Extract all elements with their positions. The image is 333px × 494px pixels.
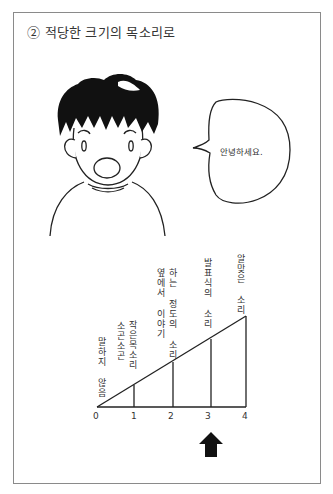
- tick-2: 2: [168, 411, 174, 421]
- speech-bubble-text: 안녕하세요.: [220, 145, 263, 157]
- boy-illustration: [50, 128, 165, 236]
- level-2-label-b: 하는 정도의 소리: [167, 268, 177, 360]
- level-0-label: 말하지 않음: [96, 337, 106, 398]
- up-arrow-icon: [199, 432, 223, 457]
- level-1-label-a: 소곤소곤: [115, 321, 125, 361]
- illustration-drawing: [0, 0, 333, 494]
- tick-0: 0: [93, 411, 99, 421]
- tick-1: 1: [131, 411, 137, 421]
- tick-4: 4: [242, 411, 248, 421]
- level-1-label-b: 작은목소리: [127, 320, 137, 370]
- hair: [58, 74, 159, 136]
- level-2-label-a: 옆에서 이야기: [155, 268, 165, 339]
- level-3-label: 발표식의 소리: [202, 258, 212, 329]
- tick-3: 3: [205, 411, 211, 421]
- level-4-label: 알맞은 소리: [235, 254, 245, 315]
